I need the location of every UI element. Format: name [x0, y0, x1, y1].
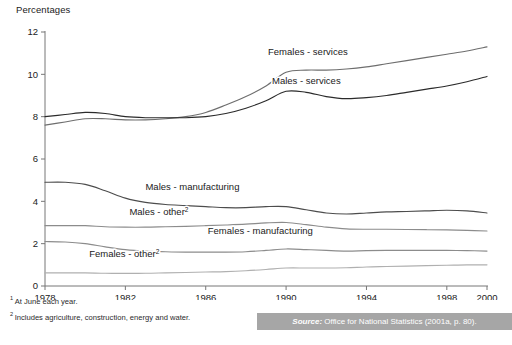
y-tick-label: 10	[27, 69, 38, 80]
y-axis: 024681012	[27, 26, 45, 291]
y-tick-label: 12	[27, 26, 38, 37]
source-citation: Office for National Statistics (2001a, p…	[324, 317, 476, 326]
x-tick-label: 1986	[195, 292, 216, 301]
footnote-1-text: At June each year.	[15, 297, 78, 306]
series-lines	[45, 47, 487, 274]
series-label: Males - other2	[129, 206, 188, 218]
footnote-2-text: Includes agriculture, construction, ener…	[15, 312, 191, 321]
x-tick-label: 1990	[276, 292, 297, 301]
line-chart-plot: 024681012 1978198219861990199419982000 F…	[0, 0, 512, 300]
series-label: Females - other2	[89, 248, 160, 260]
y-tick-label: 0	[33, 280, 38, 291]
footnote-2: 2Includes agriculture, construction, ene…	[10, 308, 190, 324]
y-tick-label: 2	[33, 238, 38, 249]
x-tick-label: 1998	[436, 292, 457, 301]
series-label: Females - manufacturing	[208, 225, 313, 236]
footnotes: 1At June each year. 2Includes agricultur…	[10, 292, 190, 323]
source-bar: Source: Office for National Statistics (…	[257, 313, 512, 330]
series-line	[45, 76, 487, 117]
series-label: Males - services	[272, 75, 341, 86]
y-tick-label: 8	[33, 111, 38, 122]
y-tick-label: 6	[33, 153, 38, 164]
source-keyword: Source:	[292, 317, 322, 326]
chart-figure: Percentages 024681012 197819821986199019…	[0, 0, 512, 345]
footnote-1-marker: 1	[10, 295, 13, 301]
x-tick-label: 1994	[356, 292, 377, 301]
y-tick-label: 4	[33, 196, 38, 207]
series-line	[45, 47, 487, 125]
series-line	[45, 265, 487, 274]
series-line	[45, 182, 487, 214]
source-line: Source: Office for National Statistics (…	[257, 313, 512, 330]
footnote-1: 1At June each year.	[10, 292, 190, 308]
series-label: Females - services	[268, 46, 348, 57]
footnote-2-marker: 2	[10, 311, 13, 317]
x-tick-label: 2000	[476, 292, 497, 301]
series-label: Males - manufacturing	[145, 181, 239, 192]
